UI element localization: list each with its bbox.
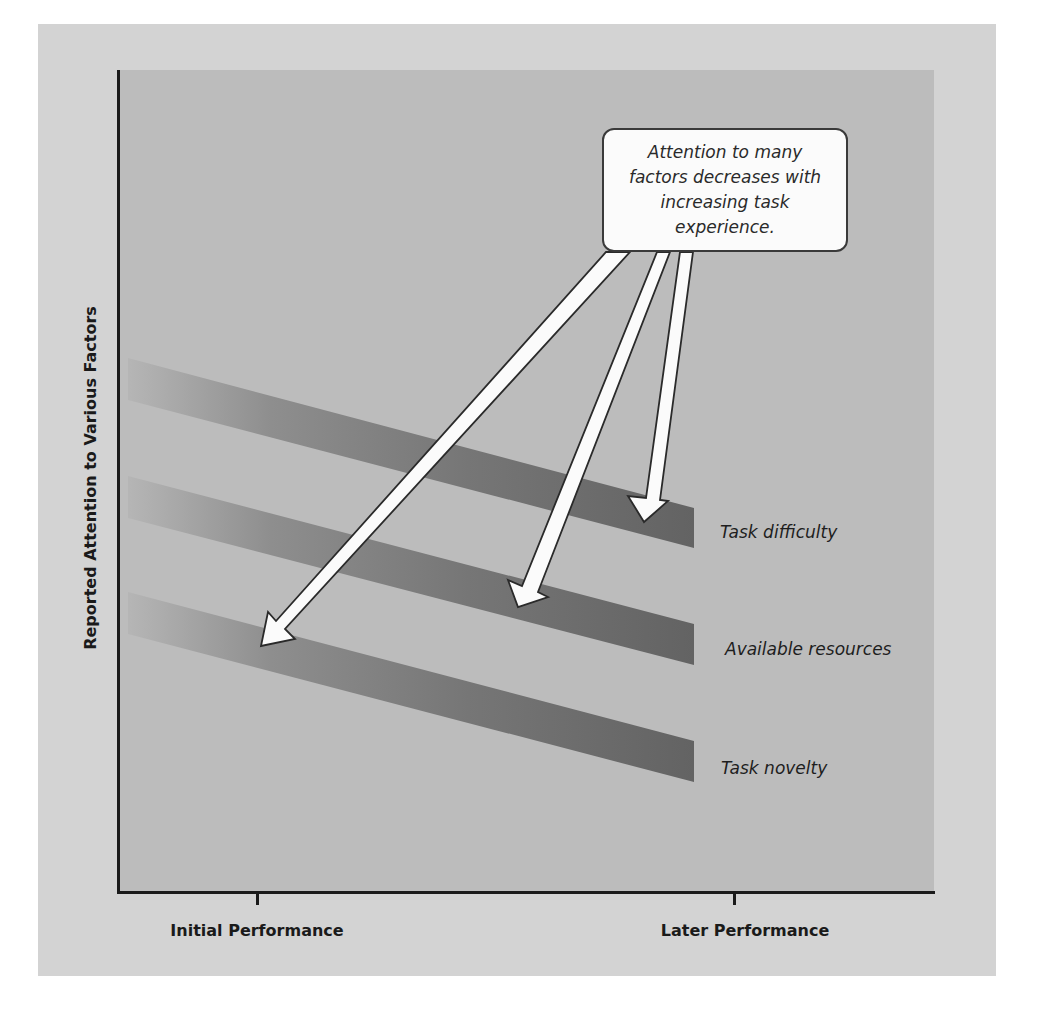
arrow-to-task-difficulty: [628, 252, 693, 522]
x-tick-initial: [256, 892, 259, 905]
series-label-task-novelty: Task novelty: [721, 758, 827, 778]
annotation-callout: Attention to many factors decreases with…: [602, 128, 848, 252]
x-tick-later: [733, 892, 736, 905]
y-axis-label: Reported Attention to Various Factors: [81, 306, 100, 650]
series-label-available-resources: Available resources: [725, 639, 891, 659]
arrow-to-available-resources: [508, 252, 670, 607]
x-axis: [117, 891, 935, 894]
x-tick-label-initial-performance: Initial Performance: [170, 921, 343, 940]
series-label-task-difficulty: Task difficulty: [720, 522, 837, 542]
x-tick-label-later-performance: Later Performance: [661, 921, 829, 940]
y-axis: [117, 70, 120, 894]
chart-graphics: [0, 0, 1041, 1017]
callout-text: Attention to many factors decreases with…: [604, 140, 846, 240]
